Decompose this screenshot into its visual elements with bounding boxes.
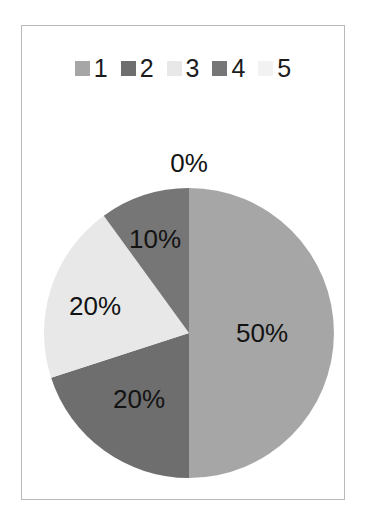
legend-label-1: 1	[94, 56, 108, 81]
legend-item-2[interactable]: 2	[121, 56, 154, 81]
chart-frame: 1 2 3 4 5 50% 20% 20% 10% 0%	[21, 25, 345, 500]
legend-label-3: 3	[186, 56, 200, 81]
slice-label-1: 50%	[236, 320, 288, 346]
legend-item-5[interactable]: 5	[258, 56, 291, 81]
legend-swatch-icon-2	[121, 61, 136, 76]
legend-item-4[interactable]: 4	[212, 56, 245, 81]
slice-label-2: 20%	[113, 386, 165, 412]
legend-label-4: 4	[231, 56, 245, 81]
legend-label-5: 5	[277, 56, 291, 81]
legend-swatch-icon-3	[167, 61, 182, 76]
pie-chart-plot: 50% 20% 20% 10% 0%	[22, 126, 346, 486]
legend-item-3[interactable]: 3	[167, 56, 200, 81]
legend-swatch-icon-5	[258, 61, 273, 76]
slice-label-4: 10%	[129, 226, 181, 252]
legend-label-2: 2	[140, 56, 154, 81]
legend-item-1[interactable]: 1	[75, 56, 108, 81]
legend-swatch-icon-1	[75, 61, 90, 76]
legend-swatch-icon-4	[212, 61, 227, 76]
slice-label-5: 0%	[170, 150, 208, 176]
slice-label-3: 20%	[69, 293, 121, 319]
chart-legend: 1 2 3 4 5	[22, 56, 344, 81]
